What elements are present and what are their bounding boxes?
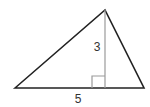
triangle-diagram: 3 5 — [0, 0, 150, 107]
right-angle-marker — [92, 76, 105, 88]
height-label: 3 — [94, 40, 101, 54]
triangle-outline — [15, 10, 144, 88]
base-label: 5 — [75, 92, 82, 106]
